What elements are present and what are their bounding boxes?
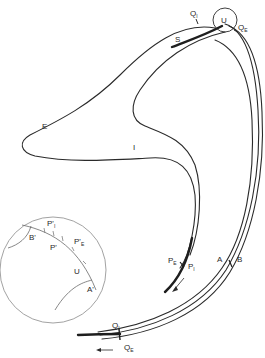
inset-tick [83,261,86,264]
trajectory-diagram: QI U QE S E I PE PI A B QI QE B' P'I P' … [0,0,265,358]
inset-label-P-I-prime: P'I [47,219,55,229]
curve-E [22,27,215,268]
inset-label-B-prime: B' [29,233,36,242]
tick-Q-top [196,19,198,24]
inset-tick [72,247,74,251]
label-Q-I-top: QI [190,9,198,19]
inset-circle [0,217,106,323]
arrow-bottom-head [96,348,101,352]
bottom-thick-segment [78,334,120,335]
label-E: E [42,122,47,131]
label-P-I: PI [188,262,195,272]
label-Q-E-top: QE [238,23,248,33]
label-U-top: U [221,16,227,25]
inset-label-A-prime: A' [87,285,94,294]
curve-I [133,32,225,255]
label-S: S [175,35,180,44]
inset-label-U: U [74,267,80,276]
label-I: I [133,143,135,152]
label-A: A [217,255,223,264]
label-P-E: PE [168,256,177,266]
inset-tick [53,231,54,236]
label-Q-E-bottom: QE [124,343,134,353]
inset-tick [62,236,63,241]
curve-B [102,26,262,339]
inset-label-P-E-prime: P'E [74,237,85,247]
label-Q-I-bottom: QI [112,321,120,331]
inset-label-P-prime: P' [50,243,57,252]
label-B: B [237,255,242,264]
